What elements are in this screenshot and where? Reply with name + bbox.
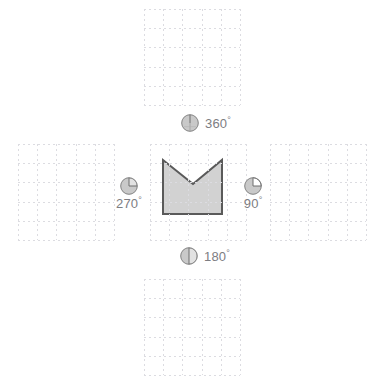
grid-line-vertical [328, 144, 329, 240]
grid-line-vertical [240, 279, 241, 375]
grid-line-vertical [202, 9, 203, 105]
grid-line-horizontal [18, 144, 114, 145]
grid-line-vertical [202, 279, 203, 375]
grid-line-horizontal [144, 375, 240, 376]
grid-line-vertical [208, 144, 209, 240]
grid-line-horizontal [144, 317, 240, 318]
grid-line-horizontal [18, 221, 114, 222]
grid-line-horizontal [18, 163, 114, 164]
grid-line-horizontal [150, 163, 246, 164]
grid-line-horizontal [144, 356, 240, 357]
grid-line-horizontal [18, 182, 114, 183]
grid-line-horizontal [144, 28, 240, 29]
panel-right[interactable] [270, 144, 366, 240]
grid-line-horizontal [150, 144, 246, 145]
grid-line-vertical [150, 144, 151, 240]
grid-line-horizontal [270, 163, 366, 164]
pie-270-icon [119, 176, 139, 196]
grid-line-horizontal [144, 67, 240, 68]
grid-line-horizontal [270, 202, 366, 203]
grid-line-horizontal [150, 182, 246, 183]
panel-bottom[interactable] [144, 279, 240, 375]
grid-line-vertical [37, 144, 38, 240]
shape-v-notched-pentagon [163, 160, 222, 214]
grid-line-vertical [270, 144, 271, 240]
grid-line-vertical [76, 144, 77, 240]
grid-line-vertical [144, 9, 145, 105]
rotation-label-270: 270° [116, 196, 142, 210]
pie-180-icon [179, 246, 199, 266]
rotation-marker-270[interactable]: 270° [116, 176, 142, 210]
rotation-marker-360[interactable]: 360° [180, 113, 231, 133]
rotation-marker-180[interactable]: 180° [179, 246, 230, 266]
rotation-task-canvas: 360° 270° 90° 180° [0, 0, 379, 386]
grid-line-vertical [182, 9, 183, 105]
grid-line-horizontal [18, 240, 114, 241]
panel-left[interactable] [18, 144, 114, 240]
grid-line-vertical [221, 9, 222, 105]
grid-line-vertical [240, 9, 241, 105]
grid-line-horizontal [144, 47, 240, 48]
grid-line-horizontal [270, 182, 366, 183]
grid-line-vertical [188, 144, 189, 240]
grid-line-vertical [114, 144, 115, 240]
panel-center[interactable] [150, 144, 246, 240]
grid-line-horizontal [270, 144, 366, 145]
grid-line-horizontal [18, 202, 114, 203]
grid-line-vertical [56, 144, 57, 240]
grid-line-vertical [163, 9, 164, 105]
pie-360-icon [180, 113, 200, 133]
grid-line-horizontal [144, 279, 240, 280]
grid-line-vertical [95, 144, 96, 240]
rotation-label-90: 90° [244, 196, 262, 210]
grid-line-horizontal [144, 337, 240, 338]
grid-line-horizontal [144, 105, 240, 106]
center-shape-layer [150, 144, 246, 240]
grid-line-horizontal [270, 240, 366, 241]
grid-line-vertical [308, 144, 309, 240]
grid-line-vertical [169, 144, 170, 240]
grid-line-horizontal [150, 202, 246, 203]
grid-line-vertical [18, 144, 19, 240]
grid-line-vertical [289, 144, 290, 240]
grid-line-horizontal [144, 298, 240, 299]
grid-line-horizontal [150, 221, 246, 222]
grid-line-vertical [366, 144, 367, 240]
grid-line-vertical [163, 279, 164, 375]
grid-line-horizontal [144, 9, 240, 10]
grid-line-vertical [347, 144, 348, 240]
grid-line-horizontal [270, 221, 366, 222]
grid-line-horizontal [144, 86, 240, 87]
rotation-label-360: 360° [205, 116, 231, 130]
panel-top[interactable] [144, 9, 240, 105]
grid-line-vertical [182, 279, 183, 375]
grid-line-vertical [144, 279, 145, 375]
pie-wedge-90 [253, 178, 261, 186]
grid-line-vertical [221, 279, 222, 375]
rotation-marker-90[interactable]: 90° [243, 176, 263, 210]
rotation-label-180: 180° [204, 249, 230, 263]
pie-wedge-180 [181, 248, 189, 264]
grid-line-vertical [227, 144, 228, 240]
grid-line-horizontal [150, 240, 246, 241]
pie-90-icon [243, 176, 263, 196]
